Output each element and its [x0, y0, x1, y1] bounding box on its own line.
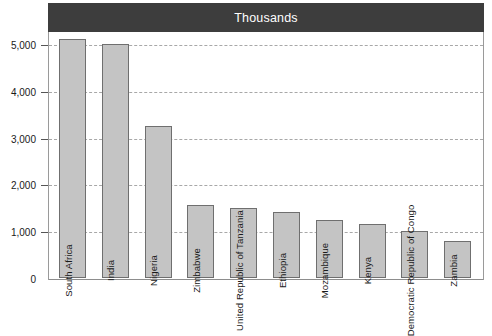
x-axis-category-label-text: Zambia	[448, 254, 458, 286]
y-axis-tick-label: 1,000	[0, 227, 36, 238]
y-axis-tick-mark	[41, 185, 48, 186]
x-axis-category-label-text: South Africa	[63, 244, 73, 296]
bar[interactable]	[59, 39, 86, 278]
y-axis-tick-label: 0	[0, 274, 36, 285]
y-axis-tick-label: 4,000	[0, 86, 36, 97]
x-axis-category-label-text: United Republic of Tanzania	[234, 210, 244, 331]
y-axis-tick-label: 3,000	[0, 133, 36, 144]
x-axis-category-label-text: Democratic Republic of Congo	[405, 204, 415, 336]
page-title: Thousands	[234, 11, 298, 25]
y-axis-tick-mark	[41, 139, 48, 140]
x-axis-category-label-text: India	[106, 259, 116, 280]
y-axis-tick-mark	[41, 92, 48, 93]
x-axis-category-label-text: Nigeria	[149, 255, 159, 286]
y-axis-tick-label: 5,000	[0, 40, 36, 51]
y-axis-tick-label: 2,000	[0, 180, 36, 191]
x-axis-category-label-text: Ethiopia	[277, 252, 287, 287]
bar[interactable]	[102, 44, 129, 278]
x-axis-category-label-text: Mozambique	[320, 242, 330, 297]
y-axis-tick-mark	[41, 45, 48, 46]
x-axis-category-label-text: Kenya	[363, 256, 373, 283]
y-axis-tick-mark	[41, 232, 48, 233]
x-axis-category-label-text: Zimbabwe	[191, 248, 201, 293]
plot-frame: South AfricaIndiaNigeriaZimbabweUnited R…	[48, 32, 484, 280]
chart-title-bar: Thousands	[48, 3, 484, 32]
plot-area: South AfricaIndiaNigeriaZimbabweUnited R…	[49, 32, 483, 279]
